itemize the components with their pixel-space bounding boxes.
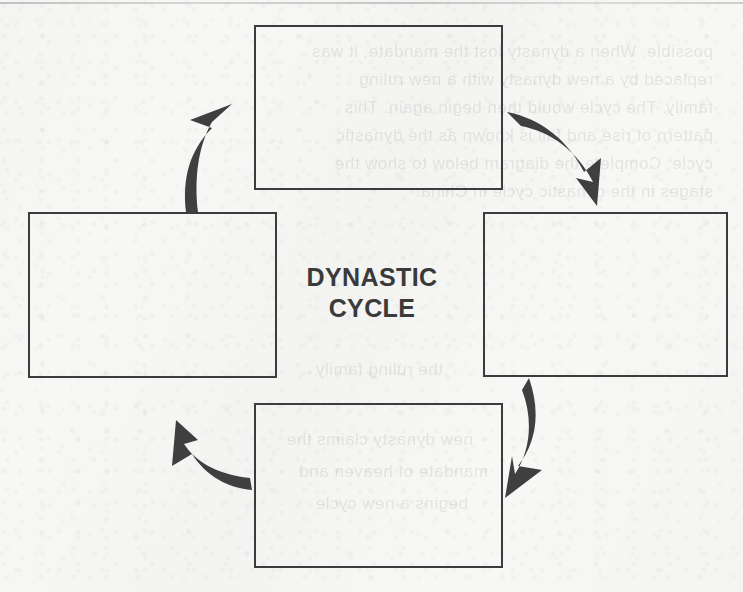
bleed-through-line: the ruling family <box>315 360 443 380</box>
cycle-box-top[interactable] <box>254 25 503 190</box>
cycle-box-left[interactable] <box>28 212 277 378</box>
arrow-right-to-bottom <box>505 378 542 498</box>
arrow-top-to-right <box>507 112 601 206</box>
arrow-left-to-top <box>185 104 232 212</box>
arrow-bottom-to-left <box>172 420 252 490</box>
scanned-page: possible. When a dynasty lost the mandat… <box>0 0 743 592</box>
cycle-box-right[interactable] <box>483 212 728 377</box>
cycle-box-bottom[interactable] <box>254 403 503 568</box>
page-title: DYNASTIC CYCLE <box>272 262 472 324</box>
cycle-title-line-1: DYNASTIC <box>272 262 472 293</box>
cycle-title-line-2: CYCLE <box>272 293 472 324</box>
scan-edge-line <box>0 2 743 4</box>
